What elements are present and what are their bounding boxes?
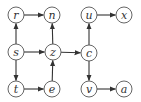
- edge-e-to-z: [52, 60, 53, 81]
- node-label: c: [86, 47, 92, 60]
- node-label: u: [85, 9, 92, 22]
- node-label: n: [48, 9, 55, 22]
- node-label: t: [14, 83, 19, 96]
- node-s: s: [8, 44, 24, 60]
- node-x: x: [116, 7, 132, 23]
- node-label: r: [13, 9, 19, 22]
- node-u: u: [81, 7, 97, 23]
- node-v: v: [81, 81, 97, 97]
- node-r: r: [8, 7, 24, 23]
- node-label: e: [49, 83, 56, 96]
- node-e: e: [44, 81, 60, 97]
- node-label: v: [86, 83, 93, 96]
- node-label: s: [13, 46, 19, 59]
- directed-graph: rnuxszcteva: [0, 0, 141, 102]
- edge-z-to-c: [61, 52, 81, 53]
- node-z: z: [45, 44, 61, 60]
- node-label: z: [49, 46, 56, 59]
- edges: [16, 15, 116, 89]
- edge-z-to-n: [52, 23, 53, 44]
- node-n: n: [44, 7, 60, 23]
- node-t: t: [8, 81, 24, 97]
- node-label: x: [121, 9, 128, 22]
- node-c: c: [81, 45, 97, 61]
- node-a: a: [116, 81, 132, 97]
- node-label: a: [121, 83, 128, 96]
